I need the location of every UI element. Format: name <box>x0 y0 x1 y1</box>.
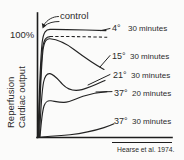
series-label-temp-4deg: 4° <box>112 23 121 33</box>
reperfusion-cardiac-output-chart: 100% Reperfusion Cardiac output control … <box>0 0 184 160</box>
series-leader-15deg <box>100 56 110 68</box>
series-label-temp-37deg-20: 37° <box>114 88 128 98</box>
series-curve-control <box>38 29 106 137</box>
series-curve-15deg-30min <box>39 39 104 137</box>
y-axis-tick-label: 100% <box>10 29 35 40</box>
credit-text: Hearse et al. 1974. <box>117 146 175 153</box>
y-axis-title-line2: Cardiac output <box>16 66 27 128</box>
series-label-duration-15deg: 30 minutes <box>130 52 169 61</box>
series-label-duration-37deg-20: 20 minutes <box>132 89 171 98</box>
control-annotation-label: control <box>60 10 89 21</box>
series-label-duration-21deg: 30 minutes <box>131 71 170 80</box>
series-curve-4deg-30min <box>50 37 108 38</box>
y-axis-title-line1: Reperfusion <box>5 77 16 128</box>
series-curve-21deg-30min <box>40 74 106 137</box>
series-label-duration-37deg-30: 30 minutes <box>132 117 171 126</box>
series-curve-37deg-30min <box>39 124 114 137</box>
series-label-temp-21deg: 21° <box>113 70 127 80</box>
series-label-duration-4deg: 30 minutes <box>128 24 167 33</box>
series-label-temp-15deg: 15° <box>112 51 126 61</box>
control-arrow-line <box>44 17 59 26</box>
control-arrow-line-2 <box>45 22 60 27</box>
series-label-temp-37deg-30: 37° <box>114 116 128 126</box>
